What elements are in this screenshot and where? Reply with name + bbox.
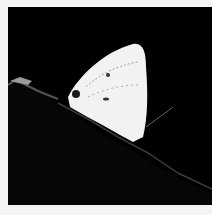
butterfly-illustration (8, 7, 212, 205)
butterfly-photo (8, 7, 212, 205)
photo-frame (0, 0, 212, 215)
